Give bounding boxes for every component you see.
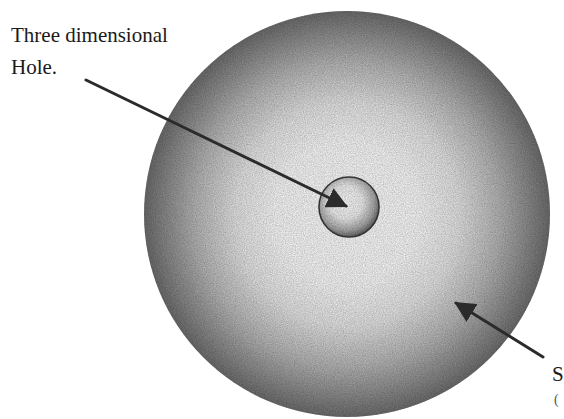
hole-label-line1: Three dimensional [11, 19, 168, 51]
hole-label: Three dimensional Hole. [11, 19, 168, 83]
three-dimensional-hole [319, 177, 379, 237]
sphere-label-line1: S [552, 358, 564, 390]
sphere-label-line2: ( [554, 390, 564, 410]
hole-label-line2: Hole. [11, 51, 168, 83]
sphere-label: S ( [552, 358, 564, 410]
